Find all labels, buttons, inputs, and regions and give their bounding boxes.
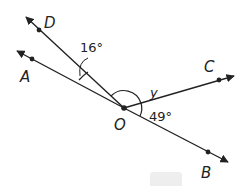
vertex-o-dot [121, 105, 127, 111]
point-a-dot [30, 57, 35, 62]
point-d-dot [37, 28, 42, 33]
label-16-degrees: 16° [80, 40, 103, 55]
label-49-degrees: 49° [149, 109, 172, 124]
label-y: y [149, 85, 158, 100]
angle-diagram: D A C B O y 16° 49° [0, 0, 249, 186]
placeholder-box [150, 172, 182, 186]
ray-od [26, 17, 124, 108]
label-c: C [204, 58, 215, 76]
label-d: D [44, 14, 56, 32]
label-b: B [201, 164, 211, 182]
angle-arc-49 [140, 103, 142, 116]
label-o: O [114, 116, 126, 134]
angle-arc-y [111, 91, 141, 103]
point-c-dot [217, 78, 222, 83]
point-b-dot [206, 150, 211, 155]
label-a: A [19, 68, 30, 86]
angle-arc-16 [79, 72, 88, 80]
